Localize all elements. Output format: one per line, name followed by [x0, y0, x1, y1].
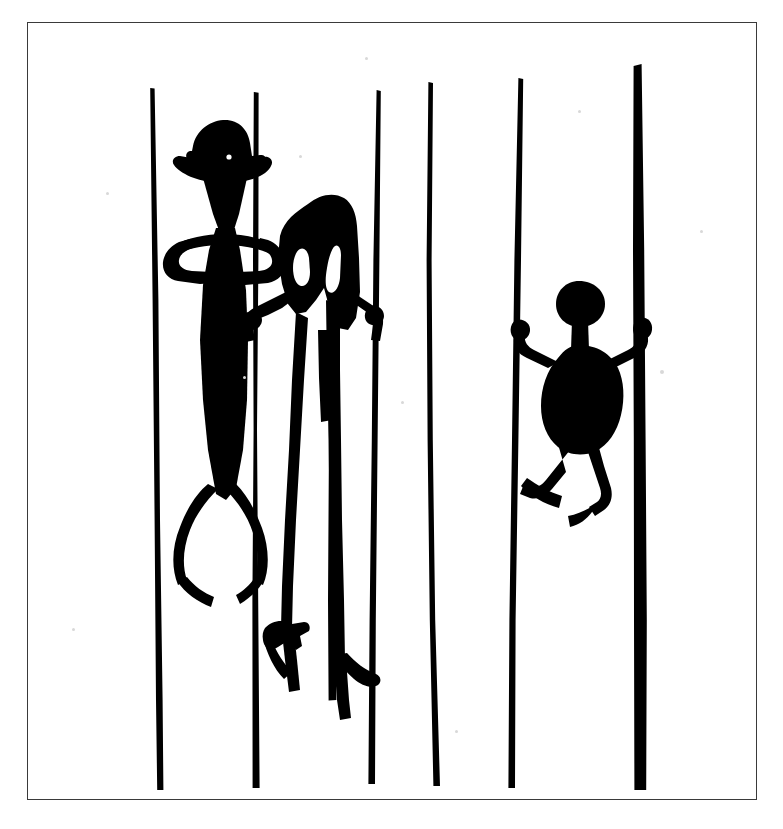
figure-2-left-hand — [242, 311, 262, 330]
figure-3-right-hand — [633, 318, 652, 340]
rock-art-illustration — [0, 0, 783, 829]
figure-1-left-foot — [177, 577, 214, 607]
figure-1-right-leg — [227, 484, 268, 585]
plate-caption — [27, 804, 757, 824]
figure-2-middle-leg-stub — [318, 330, 332, 422]
figure-1-torso — [200, 228, 248, 500]
figure-3-right-leg — [588, 444, 612, 516]
figure-2-left-leg — [281, 312, 308, 628]
line-1 — [150, 88, 163, 790]
figure-3 — [511, 281, 652, 527]
line-6 — [508, 78, 523, 788]
line-7 — [633, 64, 647, 790]
line-5 — [427, 82, 440, 786]
illustration-page — [0, 0, 783, 829]
figure-2-head-mass — [278, 195, 360, 330]
figure-3-left-hand — [511, 320, 530, 341]
figure-3-right-foot — [568, 503, 597, 527]
figure-1-right-foot — [236, 577, 264, 604]
figure-2-right-hand — [365, 306, 384, 326]
figure-1-left-leg — [173, 484, 218, 585]
figure-1-head — [203, 178, 247, 236]
figure-1-hat-highlight — [226, 154, 231, 159]
figure-1 — [163, 120, 285, 607]
line-2 — [252, 92, 259, 788]
